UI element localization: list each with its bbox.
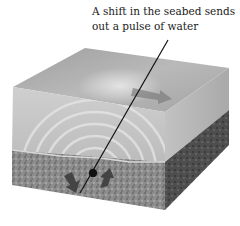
tsunami-diagram: A shift in the seabed sends out a pulse … xyxy=(0,0,240,226)
caption-line-1: A shift in the seabed sends xyxy=(92,5,235,17)
caption: A shift in the seabed sends out a pulse … xyxy=(92,4,240,34)
fault-point-marker xyxy=(89,169,97,177)
caption-line-2: out a pulse of water xyxy=(92,20,198,32)
